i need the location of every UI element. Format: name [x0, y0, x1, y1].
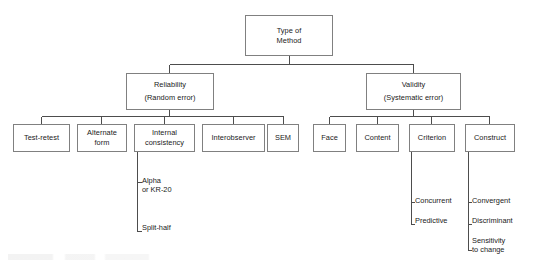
leaf-label-line: or KR-20 [142, 185, 172, 194]
leaf-label-line: Split-half [142, 223, 171, 232]
leaf-concurrent: Concurrent [415, 196, 452, 205]
leaf-label-line: Concurrent [415, 196, 452, 205]
leaf-discriminant: Discriminant [472, 216, 513, 225]
node-label-line: Validity [402, 79, 426, 92]
leaf-split-half: Split-half [142, 223, 171, 232]
node-face[interactable]: Face [313, 124, 346, 152]
leaf-alpha-or-kr20: Alpha or KR-20 [142, 176, 172, 195]
leaf-predictive: Predictive [415, 216, 447, 225]
node-interobserver[interactable]: Interobserver [202, 124, 265, 152]
node-criterion[interactable]: Criterion [409, 124, 455, 152]
page-scan-artifact [8, 254, 188, 260]
node-label-line: Content [364, 133, 390, 143]
leaf-label-line: Discriminant [472, 216, 513, 225]
node-label-line: Test-retest [24, 133, 59, 143]
node-label-line: consistency [145, 138, 184, 148]
node-label-line: form [95, 138, 110, 148]
node-label-line: SEM [275, 133, 291, 143]
leaf-label-line: Predictive [415, 216, 447, 225]
node-validity[interactable]: Validity (Systematic error) [366, 73, 461, 110]
leaf-label-line: Alpha [142, 176, 172, 185]
node-label-line: Type of [277, 26, 302, 36]
node-label-line: Reliability [154, 79, 186, 92]
node-sem[interactable]: SEM [267, 124, 299, 152]
node-sublabel-line: (Random error) [144, 92, 195, 105]
node-label-line: Alternate [87, 128, 117, 138]
leaf-sensitivity-to-change: Sensitivity to change [472, 236, 505, 255]
node-test-retest[interactable]: Test-retest [13, 124, 70, 152]
node-label-line: Face [321, 133, 338, 143]
leaf-label-line: Convergent [472, 196, 510, 205]
leaf-label-line: to change [472, 245, 505, 254]
node-label-line: Internal [152, 128, 177, 138]
node-label-line: Method [277, 36, 302, 46]
node-label-line: Interobserver [211, 133, 255, 143]
diagram-canvas: Type of Method Reliability (Random error… [0, 0, 540, 267]
node-label-line: Criterion [418, 133, 446, 143]
node-sublabel-line: (Systematic error) [384, 92, 444, 105]
leaf-label-line: Sensitivity [472, 236, 505, 245]
node-content[interactable]: Content [356, 124, 399, 152]
node-type-of-method[interactable]: Type of Method [245, 15, 333, 56]
node-alternate-form[interactable]: Alternate form [77, 124, 127, 152]
node-label-line: Construct [474, 133, 506, 143]
node-internal-consistency[interactable]: Internal consistency [134, 124, 195, 152]
node-construct[interactable]: Construct [465, 124, 515, 152]
node-reliability[interactable]: Reliability (Random error) [126, 73, 214, 110]
leaf-convergent: Convergent [472, 196, 510, 205]
